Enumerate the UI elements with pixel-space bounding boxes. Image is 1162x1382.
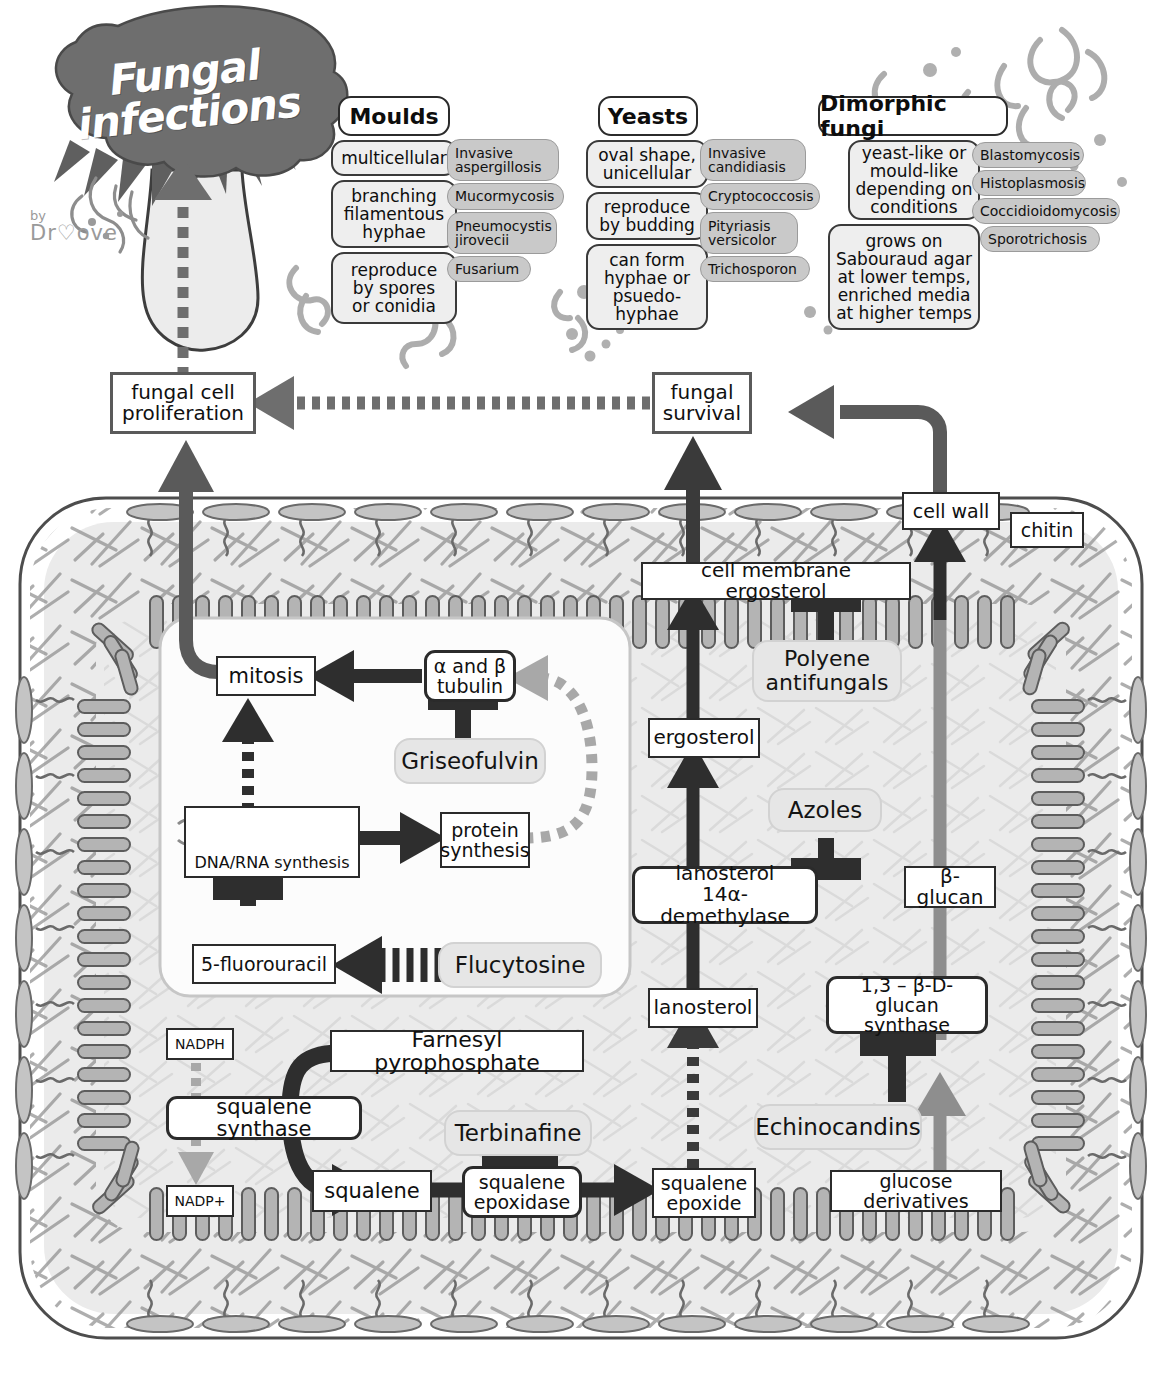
ergosterol-box: ergosterol bbox=[648, 718, 760, 758]
squalene-box: squalene bbox=[312, 1170, 432, 1212]
fungal-survival-box: fungal survival bbox=[652, 372, 752, 434]
griseofulvin-drug: Griseofulvin bbox=[394, 738, 546, 784]
protein-synthesis-box: protein synthesis bbox=[440, 812, 530, 868]
author-signature: by Dr♡ove bbox=[30, 208, 150, 245]
mould-feature-1: multicellular bbox=[331, 140, 457, 176]
echinocandins-drug: Echinocandins bbox=[754, 1104, 922, 1150]
yeast-feature-2: reproduce by budding bbox=[586, 192, 708, 240]
diagram-canvas: Fungal infections by Dr♡ove Moulds multi… bbox=[0, 0, 1162, 1382]
category-title-yeasts: Yeasts bbox=[598, 96, 698, 136]
category-title-moulds: Moulds bbox=[338, 96, 450, 136]
azoles-drug: Azoles bbox=[768, 788, 882, 832]
fungal-cell-proliferation-box: fungal cell proliferation bbox=[110, 372, 256, 434]
fluorouracil-box: 5-fluorouracil bbox=[192, 944, 336, 984]
yeast-feature-3: can form hyphae or psuedo- hyphae bbox=[586, 244, 708, 330]
yeast-disease-4: Trichosporon bbox=[700, 256, 810, 282]
yeast-disease-2: Cryptococcosis bbox=[700, 183, 820, 210]
squalene-epoxide-box: squalene epoxide bbox=[652, 1168, 756, 1218]
glucan-synthase-box: 1,3 – β-D-glucan synthase bbox=[826, 976, 988, 1034]
title-line-2: infections bbox=[76, 81, 303, 145]
category-title-dimorphic: Dimorphic fungi bbox=[818, 96, 1008, 136]
beta-glucan-box: β-glucan bbox=[904, 866, 996, 908]
nadph-box: NADPH bbox=[166, 1028, 234, 1060]
dimorphic-feature-1: yeast-like or mould-like depending on co… bbox=[848, 140, 980, 220]
cell-membrane-ergosterol-box: cell membrane ergosterol bbox=[641, 562, 911, 600]
dimorphic-disease-1: Blastomycosis bbox=[972, 142, 1084, 168]
mould-disease-3: Pneumocystis jirovecii bbox=[447, 212, 557, 254]
mould-feature-3: reproduce by spores or conidia bbox=[331, 252, 457, 324]
glucose-derivatives-box: glucose derivatives bbox=[830, 1170, 1002, 1212]
dna-rna-synthesis-box: DNA/RNA synthesis bbox=[184, 806, 360, 878]
dimorphic-feature-2: grows on Sabouraud agar at lower temps, … bbox=[828, 224, 980, 330]
yeast-disease-3: Pityriasis versicolor bbox=[700, 212, 798, 254]
yeast-feature-1: oval shape, unicellular bbox=[586, 140, 708, 188]
flucytosine-drug: Flucytosine bbox=[438, 942, 602, 988]
mould-disease-4: Fusarium bbox=[447, 256, 531, 282]
squalene-epoxidase-box: squalene epoxidase bbox=[462, 1166, 582, 1218]
dimorphic-disease-4: Sporotrichosis bbox=[980, 226, 1100, 252]
yeast-disease-1: Invasive candidiasis bbox=[700, 139, 806, 181]
terbinafine-drug: Terbinafine bbox=[444, 1110, 592, 1156]
mitosis-box: mitosis bbox=[216, 656, 316, 696]
mould-disease-1: Invasive aspergillosis bbox=[447, 139, 559, 181]
nadp-box: NADP+ bbox=[166, 1185, 234, 1217]
arrow-cellwall-to-survival bbox=[840, 412, 940, 500]
lanosterol-box: lanosterol bbox=[648, 988, 758, 1028]
lanosterol-demethylase-box: lanosterol 14α-demethylase bbox=[632, 866, 818, 924]
author-name: Dr♡ove bbox=[30, 221, 150, 245]
mould-disease-2: Mucormycosis bbox=[447, 183, 564, 210]
farnesyl-pyrophosphate-box: Farnesyl pyrophosphate bbox=[330, 1030, 584, 1072]
dimorphic-disease-2: Histoplasmosis bbox=[972, 170, 1086, 196]
squalene-synthase-box: squalene synthase bbox=[166, 1096, 362, 1140]
mould-feature-2: branching filamentous hyphae bbox=[331, 180, 457, 248]
tubulin-box: α and β tubulin bbox=[424, 650, 516, 702]
polyene-antifungals-drug: Polyene antifungals bbox=[752, 640, 902, 702]
cell-wall-label: cell wall bbox=[902, 492, 1000, 530]
dimorphic-disease-3: Coccidioidomycosis bbox=[972, 198, 1120, 224]
chitin-label: chitin bbox=[1010, 512, 1084, 548]
